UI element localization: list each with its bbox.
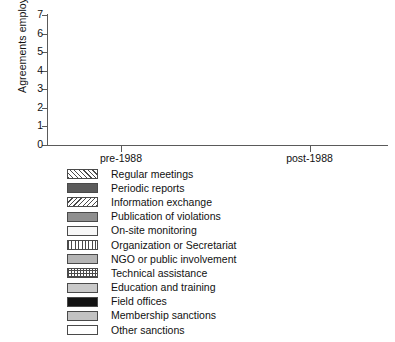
legend-item[interactable]: Information exchange [67,195,327,209]
legend-swatch-icon [67,226,98,236]
legend-swatch-icon [67,240,98,250]
legend-item-label: Other sanctions [111,325,185,336]
plot-area: Agreements employingb 01234567 pre-1988p… [0,0,395,165]
legend-swatch-icon [67,325,98,335]
x-axis-line [47,145,388,146]
legend-item-label: NGO or public involvement [111,254,236,265]
legend-item[interactable]: Regular meetings [67,167,327,181]
legend-item[interactable]: On-site monitoring [67,224,327,238]
legend-item[interactable]: Publication of violations [67,210,327,224]
legend-item[interactable]: Technical assistance [67,266,327,280]
legend-item[interactable]: NGO or public involvement [67,252,327,266]
legend-item[interactable]: Other sanctions [67,323,327,337]
chart-legend: Regular meetingsPeriodic reportsInformat… [67,167,327,337]
legend-item-label: On-site monitoring [111,225,197,236]
legend-item-label: Field offices [111,296,167,307]
legend-swatch-icon [67,183,98,193]
legend-swatch-icon [67,212,98,222]
x-axis-tick-label: post-1988 [265,152,355,164]
legend-item-label: Education and training [111,282,216,293]
legend-item[interactable]: Periodic reports [67,181,327,195]
legend-item-label: Technical assistance [111,268,207,279]
legend-item[interactable]: Membership sanctions [67,309,327,323]
legend-swatch-icon [67,268,98,278]
y-axis-tick-label: 0 [23,139,43,149]
bar-chart-figure: Agreements employingb 01234567 pre-1988p… [0,0,395,342]
y-axis-tick-label: 2 [23,102,43,112]
y-axis-tick-label: 3 [23,83,43,93]
y-axis-line [47,14,48,146]
y-axis-tick-label: 4 [23,65,43,75]
legend-item-label: Information exchange [111,197,212,208]
legend-item-label: Publication of violations [111,211,221,222]
legend-item-label: Organization or Secretariat [111,240,236,251]
y-axis-tick-label: 7 [23,9,43,19]
legend-swatch-icon [67,169,98,179]
legend-swatch-icon [67,311,98,321]
legend-swatch-icon [67,254,98,264]
legend-item-label: Membership sanctions [111,310,216,321]
y-axis-tick-label: 5 [23,46,43,56]
legend-swatch-icon [67,197,98,207]
legend-item-label: Regular meetings [111,169,193,180]
x-axis-tick-label: pre-1988 [76,152,166,164]
legend-item[interactable]: Field offices [67,295,327,309]
legend-item[interactable]: Organization or Secretariat [67,238,327,252]
y-axis-tick-label: 1 [23,120,43,130]
legend-item[interactable]: Education and training [67,281,327,295]
legend-item-label: Periodic reports [111,183,185,194]
legend-swatch-icon [67,283,98,293]
y-axis-tick-label: 6 [23,28,43,38]
legend-swatch-icon [67,297,98,307]
